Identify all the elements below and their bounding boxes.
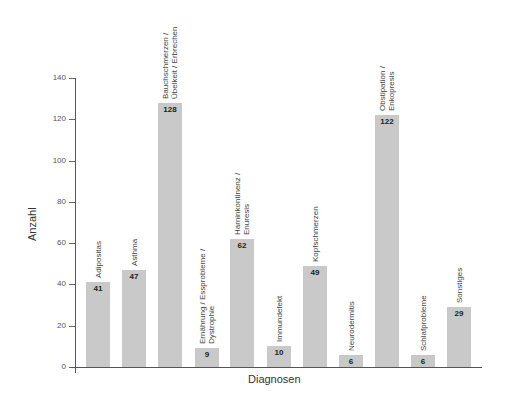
category-label: Obstipation / Enkopresis [378,66,396,111]
y-tick-label: 40 [36,279,66,288]
bar-value-label: 41 [86,284,110,293]
bar-value-label: 47 [122,272,146,281]
bar-value-label: 9 [195,350,219,359]
bar-value-label: 6 [411,357,435,366]
bar-value-label: 62 [230,241,254,250]
x-axis-line [70,367,482,368]
category-label: Kopfschmerzen [311,206,320,262]
bar-value-label: 6 [339,357,363,366]
category-label: Neurodermitis [347,301,356,351]
y-tick-label: 100 [36,156,66,165]
y-tick-label: 140 [36,73,66,82]
bar: 9 [195,348,219,367]
y-tick-label: 60 [36,238,66,247]
bar-value-label: 29 [447,309,471,318]
category-label: Sonstiges [455,268,464,303]
y-axis-line [75,78,76,373]
bar: 6 [411,355,435,367]
bar: 128 [158,103,182,367]
bar: 62 [230,239,254,367]
category-label: Harninkontinenz / Enuresis [233,173,251,235]
y-tick-label: 80 [36,197,66,206]
bar-value-label: 49 [303,268,327,277]
bar: 122 [375,115,399,367]
y-tick-label: 0 [36,362,66,371]
bar-value-label: 128 [158,105,182,114]
bar-value-label: 10 [267,348,291,357]
bar: 47 [122,270,146,367]
bar: 41 [86,282,110,367]
category-label: Schlafprobleme [419,295,428,351]
category-label: Bauchschmerzen / Übelkeit / Erbrechen [161,26,179,98]
bar: 6 [339,355,363,367]
category-label: Adipositas [94,241,103,278]
bar: 29 [447,307,471,367]
category-label: Asthma [130,239,139,266]
bar-value-label: 122 [375,117,399,126]
y-tick-label: 20 [36,321,66,330]
category-label: Ernährung / Essprobleme / Dystrophie [198,249,216,344]
bar: 10 [267,346,291,367]
x-axis-label: Diagnosen [248,373,301,385]
y-axis-label: Anzahl [26,207,38,241]
bar: 49 [303,266,327,367]
y-tick-label: 120 [36,114,66,123]
category-label: Immundefekt [275,296,284,342]
bar-chart: 020406080100120140 41Adipositas47Asthma1… [0,0,506,403]
